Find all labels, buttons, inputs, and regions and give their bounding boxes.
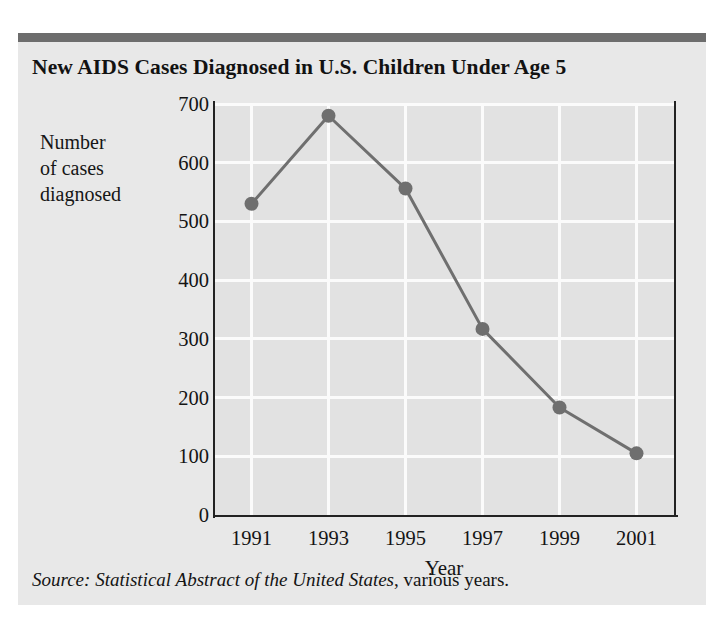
source-note-title: Source: Statistical Abstract of the Unit… [32,569,394,590]
data-point-marker: 1991: 530 [245,197,259,211]
x-tick-label: 1993 [289,528,369,549]
source-note: Source: Statistical Abstract of the Unit… [32,569,509,591]
figure-panel: New AIDS Cases Diagnosed in U.S. Childre… [18,33,706,605]
data-point-marker: 1999: 183 [553,401,567,415]
data-point-marker: 1995: 556 [399,182,413,196]
plot-wrapper: 0100200300400500600700 19911993199519971… [18,33,706,605]
x-tick-label: 1995 [366,528,446,549]
data-point-marker: 1997: 317 [476,322,490,336]
x-tick-label: 2001 [597,528,677,549]
x-tick-label: 1999 [520,528,600,549]
x-tick-label: 1997 [443,528,523,549]
data-point-marker: 2001: 105 [630,446,644,460]
series-line [252,116,637,454]
x-tick-label: 1991 [212,528,292,549]
source-note-suffix: , various years. [394,569,509,590]
data-series: 1991: 5301993: 6801995: 5561997: 3171999… [213,104,675,515]
data-point-marker: 1993: 680 [322,109,336,123]
